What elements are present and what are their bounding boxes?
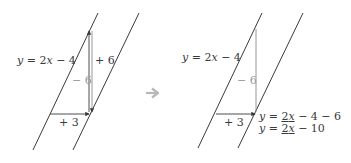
right-equation-label: y = 2x − 4 xyxy=(182,52,241,64)
right-arrow-icon xyxy=(146,89,158,98)
eq-text: = xyxy=(265,122,281,135)
left-down-label: − 6 xyxy=(72,75,92,87)
eq-rest: − 10 xyxy=(295,122,325,135)
result-equation-line2: y = 2x − 10 xyxy=(259,123,325,135)
eq-rest: − 4 xyxy=(218,51,241,64)
eq-text: = 2 xyxy=(188,51,211,64)
eq-rest: − 4 xyxy=(53,54,76,67)
right-down-label: − 6 xyxy=(237,75,257,87)
left-equation-label: y = 2x − 4 xyxy=(17,55,76,67)
coef-2x: 2x xyxy=(281,122,294,135)
left-run-label: + 3 xyxy=(59,117,79,129)
right-run-label: + 3 xyxy=(224,117,244,129)
left-up-label: + 6 xyxy=(95,55,115,67)
eq-text: = 2 xyxy=(23,54,46,67)
diagram-canvas xyxy=(0,0,351,163)
